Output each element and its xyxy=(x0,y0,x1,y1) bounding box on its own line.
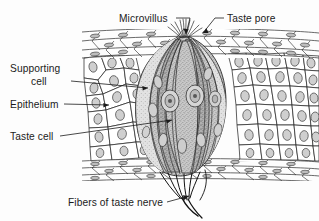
diagram-canvas: Microvillus Taste pore Supporting cell E… xyxy=(0,0,319,221)
label-microvillus: Microvillus xyxy=(119,13,168,24)
label-epithelium: Epithelium xyxy=(10,99,59,110)
taste-bud-diagram: Microvillus Taste pore Supporting cell E… xyxy=(0,0,319,221)
label-taste-pore: Taste pore xyxy=(227,13,276,24)
epithelial-cell-field-right xyxy=(228,53,319,161)
label-taste-cell: Taste cell xyxy=(10,131,53,142)
label-fibers-of-taste-nerve: Fibers of taste nerve xyxy=(68,197,163,208)
label-supporting-cell-line1: Supporting xyxy=(10,63,61,74)
label-supporting-cell-line2: cell xyxy=(31,76,47,87)
